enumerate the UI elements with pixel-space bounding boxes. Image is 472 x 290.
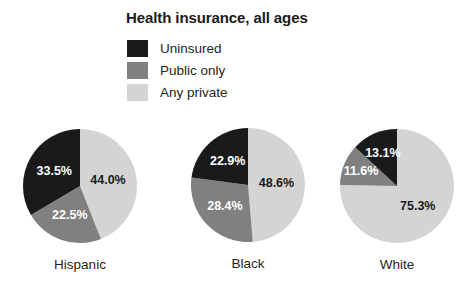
legend-label-public-only: Public only — [160, 63, 225, 78]
pie-caption-black: Black — [190, 256, 306, 271]
pie-chart-black: 48.6%28.4%22.9%Black — [190, 127, 306, 243]
legend-swatch-public-only — [127, 62, 148, 79]
chart-figure: Health insurance, all ages Uninsured Pub… — [0, 0, 472, 290]
pie-slice-value-any-private: 48.6% — [259, 176, 294, 190]
chart-legend: Uninsured Public only Any private — [127, 37, 228, 103]
pie-caption-hispanic: Hispanic — [22, 257, 138, 272]
pie-slice-value-any-private: 44.0% — [90, 173, 125, 187]
legend-label-any-private: Any private — [160, 85, 228, 100]
pie-slice-value-public-only: 28.4% — [207, 199, 242, 213]
pie-chart-white: 75.3%11.6%13.1%White — [339, 128, 455, 244]
pie-slice-value-uninsured: 33.5% — [37, 164, 72, 178]
pie-slice-value-public-only: 11.6% — [344, 164, 379, 178]
pie-svg: 44.0%22.5%33.5% — [22, 128, 138, 244]
pie-slice-value-uninsured: 22.9% — [210, 154, 245, 168]
legend-item-any-private: Any private — [127, 81, 228, 103]
pie-svg: 75.3%11.6%13.1% — [339, 128, 455, 244]
legend-swatch-any-private — [127, 84, 148, 101]
pie-caption-white: White — [339, 257, 455, 272]
pie-slice-value-any-private: 75.3% — [400, 199, 435, 213]
legend-label-uninsured: Uninsured — [160, 41, 222, 56]
pie-slice-value-uninsured: 13.1% — [365, 146, 400, 160]
pie-slice-value-public-only: 22.5% — [52, 208, 87, 222]
legend-swatch-uninsured — [127, 40, 148, 57]
legend-item-uninsured: Uninsured — [127, 37, 228, 59]
pie-chart-hispanic: 44.0%22.5%33.5%Hispanic — [22, 128, 138, 244]
pie-svg: 48.6%28.4%22.9% — [190, 127, 306, 243]
chart-title: Health insurance, all ages — [126, 9, 308, 26]
legend-item-public-only: Public only — [127, 59, 228, 81]
